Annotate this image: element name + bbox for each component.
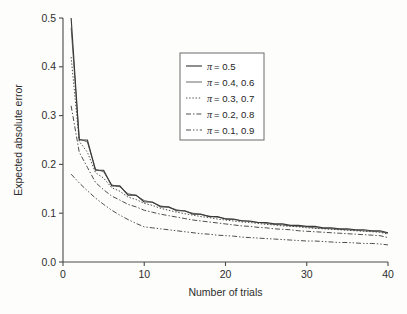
y-tick-label: 0.4 — [41, 60, 56, 72]
chart-legend: π= 0.5π= 0.4, 0.6π= 0.3, 0.7π= 0.2, 0.8π… — [180, 53, 264, 140]
y-tick-label: 0.3 — [41, 109, 56, 121]
legend-label-2: = 0.3, 0.7 — [214, 93, 254, 104]
y-axis-title: Expected absolute error — [12, 84, 24, 196]
chart-figure: 0.00.10.20.30.40.5010203040Number of tri… — [0, 0, 407, 314]
legend-label-1: = 0.4, 0.6 — [214, 77, 254, 88]
legend-pi-symbol-3: π — [207, 109, 213, 120]
x-tick-label: 10 — [138, 268, 150, 280]
x-tick-label: 0 — [60, 268, 66, 280]
legend-pi-symbol-0: π — [207, 61, 213, 72]
y-tick-label: 0.1 — [41, 207, 56, 219]
line-chart: 0.00.10.20.30.40.5010203040Number of tri… — [0, 0, 407, 314]
y-tick-label: 0.2 — [41, 158, 56, 170]
legend-label-4: = 0.1, 0.9 — [214, 125, 254, 136]
x-tick-label: 40 — [382, 268, 394, 280]
x-tick-label: 30 — [301, 268, 313, 280]
legend-pi-symbol-4: π — [207, 125, 213, 136]
legend-pi-symbol-2: π — [207, 93, 213, 104]
legend-label-3: = 0.2, 0.8 — [214, 109, 254, 120]
x-axis-title: Number of trials — [188, 286, 262, 298]
legend-pi-symbol-1: π — [207, 77, 213, 88]
y-tick-label: 0.5 — [41, 12, 56, 24]
series-line-pi-0.1-0.9 — [71, 174, 388, 245]
x-tick-label: 20 — [220, 268, 232, 280]
legend-label-0: = 0.5 — [214, 61, 236, 72]
y-tick-label: 0.0 — [41, 256, 56, 268]
